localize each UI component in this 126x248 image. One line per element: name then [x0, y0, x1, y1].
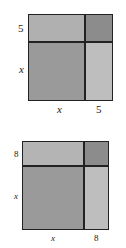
outer-square	[28, 14, 113, 101]
side-label-bottom: x	[14, 191, 18, 202]
bottom-label-left: x	[51, 233, 55, 244]
outer-square	[22, 141, 109, 230]
bottom-label-right: 8	[94, 233, 99, 244]
bottom-label-right: 5	[96, 104, 102, 115]
side-label-bottom: x	[19, 64, 24, 75]
bottom-label-left: x	[57, 104, 62, 115]
side-label-top: 5	[18, 23, 24, 34]
side-label-top: 8	[14, 149, 19, 160]
